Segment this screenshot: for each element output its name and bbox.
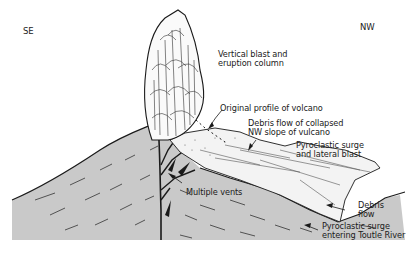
direction-label-nw: NW <box>360 23 375 32</box>
eruption-column <box>145 10 204 140</box>
label-pyroclastic-toutle: Pyroclastic surge entering Toutle River <box>322 222 405 240</box>
volcano-diagram <box>0 0 415 253</box>
label-debris-flow: Debris flow <box>358 201 384 219</box>
direction-label-se: SE <box>23 27 34 36</box>
label-debris-flow-collapsed: Debris flow of collapsed NW slope of vul… <box>248 119 343 137</box>
label-vertical-blast: Vertical blast and eruption column <box>218 50 287 68</box>
label-original-profile: Original profile of volcano <box>220 104 323 113</box>
label-multiple-vents: Multiple vents <box>186 188 242 197</box>
label-pyroclastic-lateral: Pyroclastic surge and lateral blast <box>296 141 364 159</box>
